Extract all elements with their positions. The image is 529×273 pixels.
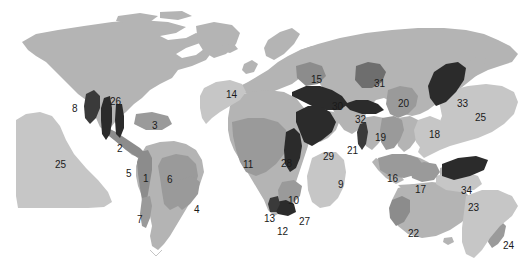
world-map-graphic xyxy=(0,0,529,273)
region-label-8: 8 xyxy=(72,104,78,114)
region-label-6: 6 xyxy=(167,175,173,185)
land-british-isles xyxy=(242,60,258,74)
region-label-5: 5 xyxy=(126,169,132,179)
region-label-21: 21 xyxy=(347,146,358,156)
region-label-12: 12 xyxy=(277,227,288,237)
region-label-11: 11 xyxy=(243,160,253,170)
region-label-15: 15 xyxy=(311,75,322,85)
region-label-4: 4 xyxy=(194,205,200,215)
hotspot-34-new-guinea xyxy=(442,156,488,180)
region-label-14: 14 xyxy=(226,90,237,100)
region-label-25-east-pacific: 25 xyxy=(55,160,66,170)
hotspot-26b-madrean-east xyxy=(115,104,124,138)
world-map-figure: 1 2 3 4 5 6 7 8 9 10 11 12 13 14 15 16 1… xyxy=(0,0,529,273)
land-tasmania xyxy=(443,237,454,245)
region-label-2: 2 xyxy=(117,144,123,154)
region-label-30: 30 xyxy=(332,102,343,112)
coastline-detail-group xyxy=(150,250,162,256)
region-label-32: 32 xyxy=(355,115,366,125)
region-label-10: 10 xyxy=(288,196,299,206)
land-arctic-islands-2 xyxy=(160,11,192,20)
region-label-28: 28 xyxy=(281,159,292,169)
region-label-34: 34 xyxy=(461,186,472,196)
region-label-25-west-pacific: 25 xyxy=(475,113,486,123)
region-label-13: 13 xyxy=(264,214,275,224)
region-label-31: 31 xyxy=(374,79,385,89)
region-label-7: 7 xyxy=(137,215,143,225)
region-label-3: 3 xyxy=(152,121,158,131)
hotspot-17-wallacea xyxy=(410,162,440,182)
region-label-17: 17 xyxy=(415,185,426,195)
region-label-18: 18 xyxy=(429,130,440,140)
region-label-26: 26 xyxy=(110,97,121,107)
region-label-24: 24 xyxy=(503,241,514,251)
region-label-16: 16 xyxy=(387,174,398,184)
region-label-27: 27 xyxy=(299,217,310,227)
region-label-9: 9 xyxy=(338,180,344,190)
coast-detail-1 xyxy=(150,250,162,256)
region-label-29: 29 xyxy=(323,152,334,162)
region-label-20: 20 xyxy=(398,99,409,109)
region-label-22: 22 xyxy=(408,229,419,239)
region-label-33: 33 xyxy=(457,99,468,109)
region-label-23: 23 xyxy=(468,203,479,213)
region-label-19: 19 xyxy=(375,133,386,143)
region-label-1: 1 xyxy=(143,174,149,184)
